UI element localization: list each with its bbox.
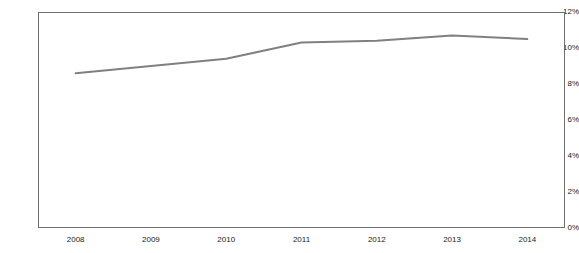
- x-axis-tick-label: 2012: [347, 236, 407, 244]
- x-axis-tick-label: 2008: [46, 236, 106, 244]
- x-axis-tick-label: 2013: [422, 236, 482, 244]
- plot-area: [38, 12, 565, 228]
- line-chart: 0%2%4%6%8%10%12% 20082009201020112012201…: [0, 0, 579, 253]
- x-axis-tick-label: 2010: [196, 236, 256, 244]
- x-axis-tick-label: 2011: [272, 236, 332, 244]
- x-axis-tick-label: 2009: [121, 236, 181, 244]
- x-axis-tick-label: 2014: [497, 236, 557, 244]
